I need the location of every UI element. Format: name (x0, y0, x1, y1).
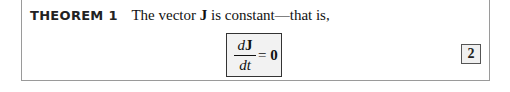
derivative-fraction: dJ dt (234, 37, 256, 74)
equation-box: dJ dt = 0 (226, 33, 282, 77)
equation-number: 2 (461, 44, 481, 64)
fraction-bar (234, 55, 256, 56)
equation-rhs: = 0 (258, 47, 278, 64)
theorem-statement: The vector J is constant—that is, (131, 7, 329, 23)
fraction-numerator: dJ (234, 37, 256, 54)
theorem-header: THEOREM 1 The vector J is constant—that … (30, 7, 330, 24)
fraction-denominator: dt (234, 57, 256, 74)
theorem-label: THEOREM 1 (30, 8, 118, 23)
